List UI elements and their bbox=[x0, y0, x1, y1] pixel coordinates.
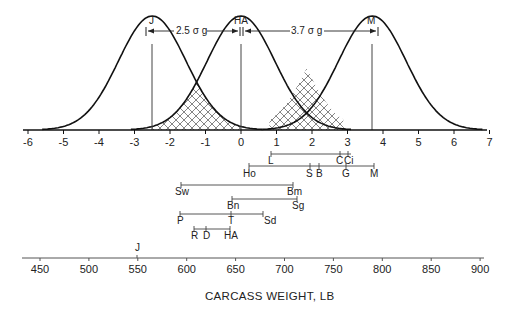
sigma-tick-label: -5 bbox=[59, 136, 69, 148]
breed-bn: Bn bbox=[227, 200, 239, 211]
breed-s: S bbox=[306, 168, 313, 179]
weight-axis-ticks: 450500550600650700750800850900 bbox=[31, 258, 489, 275]
sigma-tick-label: 5 bbox=[415, 136, 421, 148]
sigma-axis-ticks: -6-5-4-3-2-101234567 bbox=[23, 130, 492, 148]
sigma-tick-label: -3 bbox=[130, 136, 140, 148]
breed-ha: HA bbox=[224, 230, 238, 241]
weight-tick-label: 800 bbox=[373, 263, 391, 275]
label-j-top: J bbox=[149, 15, 154, 26]
weight-tick-label: 700 bbox=[275, 263, 293, 275]
sigma-tick-label: 2 bbox=[309, 136, 315, 148]
weight-tick-label: 550 bbox=[129, 263, 147, 275]
label-2-5-sigma-g: 2.5 σ g bbox=[176, 25, 207, 36]
sigma-tick-label: 4 bbox=[380, 136, 386, 148]
weight-tick-label: 750 bbox=[324, 263, 342, 275]
overlap-hatch-j-ha bbox=[152, 83, 241, 130]
breed-ci: Ci bbox=[344, 155, 353, 166]
breed-t: T bbox=[228, 215, 234, 226]
weight-tick-label: 500 bbox=[80, 263, 98, 275]
sigma-tick-label: -2 bbox=[165, 136, 175, 148]
sigma-tick-label: -1 bbox=[201, 136, 211, 148]
weight-tick-label: 600 bbox=[178, 263, 196, 275]
breed-g: G bbox=[342, 168, 350, 179]
sigma-tick-label: -4 bbox=[94, 136, 104, 148]
breed-ho: Ho bbox=[243, 168, 256, 179]
weight-tick-label: 850 bbox=[422, 263, 440, 275]
weight-axis-caption: CARCASS WEIGHT, LB bbox=[205, 290, 334, 302]
label-3-7-sigma-g: 3.7 σ g bbox=[291, 25, 322, 36]
breed-sg: Sg bbox=[292, 200, 304, 211]
breed-d: D bbox=[203, 230, 210, 241]
label-ha-top: HA bbox=[234, 15, 248, 26]
breed-b: B bbox=[316, 168, 323, 179]
label-m-top: M bbox=[367, 15, 375, 26]
breed-bm: Bm bbox=[287, 186, 302, 197]
breed-l: L bbox=[268, 155, 274, 166]
breed-labels: L C Ci Ho S B G M Sw Bm Bn Sg P T Sd R D… bbox=[135, 155, 378, 253]
sigma-tick-label: 3 bbox=[344, 136, 350, 148]
breed-sw: Sw bbox=[175, 186, 190, 197]
weight-tick-label: 900 bbox=[471, 263, 489, 275]
breed-sd: Sd bbox=[264, 215, 276, 226]
carcass-weight-distribution-diagram: J HA M 2.5 σ g 3.7 σ g -6-5-4-3-2-101234… bbox=[0, 0, 532, 310]
sigma-tick-label: -6 bbox=[23, 136, 33, 148]
weight-tick-label: 450 bbox=[31, 263, 49, 275]
weight-tick-label: 650 bbox=[226, 263, 244, 275]
breed-c: C bbox=[336, 155, 343, 166]
sigma-tick-label: 6 bbox=[451, 136, 457, 148]
sigma-tick-label: 1 bbox=[273, 136, 279, 148]
sigma-tick-label: 7 bbox=[486, 136, 492, 148]
breed-m: M bbox=[370, 168, 378, 179]
breed-j: J bbox=[135, 242, 140, 253]
overlap-hatch-ha-m bbox=[269, 69, 344, 130]
breed-r: R bbox=[191, 230, 198, 241]
breed-p: P bbox=[177, 215, 184, 226]
sigma-tick-label: 0 bbox=[238, 136, 244, 148]
